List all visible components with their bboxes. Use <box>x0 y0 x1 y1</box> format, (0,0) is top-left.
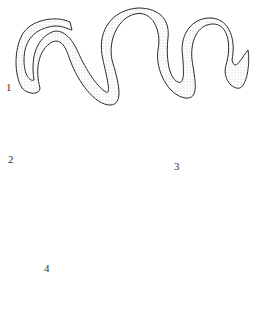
figure-label-3: 3 <box>174 160 180 172</box>
helminth-illustration <box>0 0 257 325</box>
figure-label-4: 4 <box>44 262 50 274</box>
figure-1-ribbon-worm <box>16 8 249 105</box>
figure-label-1: 1 <box>6 81 12 93</box>
figure-label-2: 2 <box>8 153 14 165</box>
